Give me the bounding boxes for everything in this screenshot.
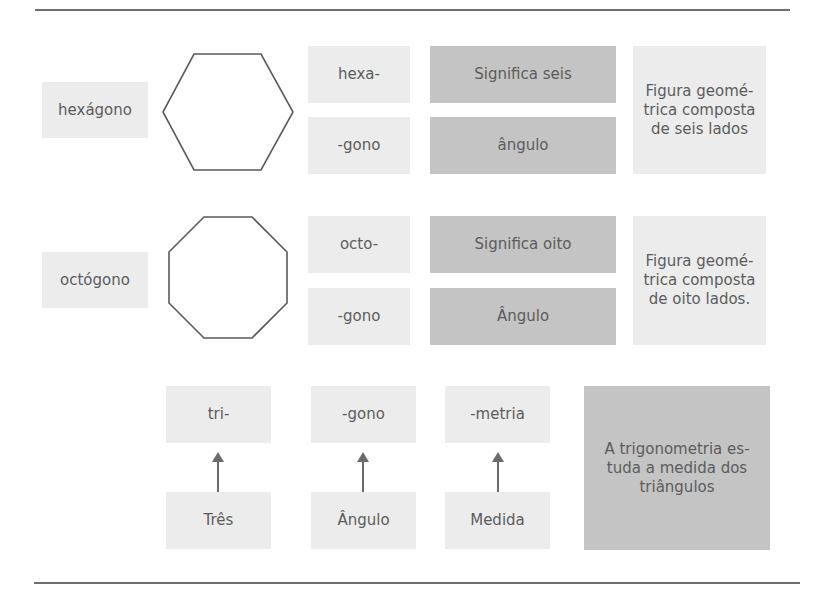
meaning-medida: Medida xyxy=(445,492,550,549)
definition-trigonometria: A trigonometria es-tuda a medida dos tri… xyxy=(584,386,770,550)
bottom-rule xyxy=(34,582,800,584)
octagon-icon xyxy=(166,214,290,342)
affix-metria: -metria xyxy=(445,386,550,443)
meaning-angulo: Ângulo xyxy=(430,288,616,345)
meaning-angulo: Ângulo xyxy=(311,492,416,549)
affix-gono: -gono xyxy=(308,288,410,345)
affix-octo: octo- xyxy=(308,216,410,273)
meaning-significa-seis: Significa seis xyxy=(430,46,616,103)
definition-text: Figura geomé-trica composta de seis lado… xyxy=(639,82,760,139)
affix-gono: -gono xyxy=(308,117,410,174)
hexagon-icon xyxy=(160,50,296,174)
meaning-tres: Três xyxy=(166,492,271,549)
meaning-significa-oito: Significa oito xyxy=(430,216,616,273)
arrow-up-icon xyxy=(355,452,371,492)
affix-hexa: hexa- xyxy=(308,46,410,103)
arrow-up-icon xyxy=(210,452,226,492)
definition-octogono: Figura geomé-trica composta de oito lado… xyxy=(633,216,766,345)
affix-tri: tri- xyxy=(166,386,271,443)
arrow-up-icon xyxy=(490,452,506,492)
meaning-angulo: ângulo xyxy=(430,117,616,174)
term-hexagono: hexágono xyxy=(42,82,148,138)
definition-text: Figura geomé-trica composta de oito lado… xyxy=(639,252,760,309)
definition-hexagono: Figura geomé-trica composta de seis lado… xyxy=(633,46,766,174)
term-octogono: octógono xyxy=(42,252,148,308)
top-rule xyxy=(35,9,790,11)
definition-text: A trigonometria es-tuda a medida dos tri… xyxy=(590,440,764,497)
affix-gono: -gono xyxy=(311,386,416,443)
